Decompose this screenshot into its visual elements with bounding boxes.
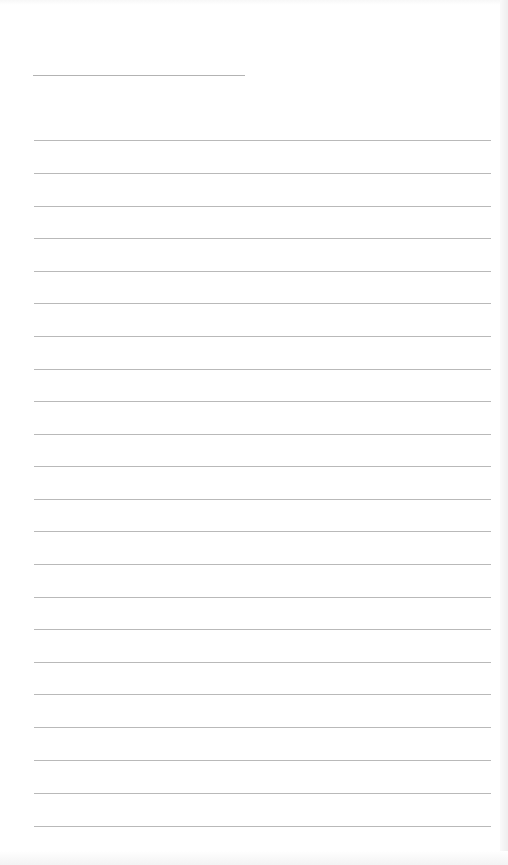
ruled-line — [34, 401, 491, 402]
ruled-line — [34, 369, 491, 370]
ruled-line — [34, 140, 491, 141]
ruled-line — [34, 793, 491, 794]
ruled-line — [34, 271, 491, 272]
ruled-line — [34, 727, 491, 728]
ruled-line — [34, 173, 491, 174]
ruled-line — [34, 662, 491, 663]
top-edge-shading — [0, 0, 508, 5]
header-title-rule — [33, 75, 245, 76]
ruled-line — [34, 629, 491, 630]
ruled-line — [34, 597, 491, 598]
right-edge-shading — [500, 0, 508, 865]
bottom-edge-shading — [0, 851, 508, 865]
ruled-line — [34, 238, 491, 239]
ruled-line — [34, 303, 491, 304]
ruled-line — [34, 499, 491, 500]
ruled-line — [34, 694, 491, 695]
ruled-line — [34, 466, 491, 467]
ruled-line — [34, 826, 491, 827]
ruled-line — [34, 564, 491, 565]
ruled-line — [34, 434, 491, 435]
ruled-line — [34, 760, 491, 761]
ruled-line — [34, 336, 491, 337]
lined-paper-page — [0, 0, 508, 865]
ruled-line — [34, 206, 491, 207]
ruled-line — [34, 531, 491, 532]
